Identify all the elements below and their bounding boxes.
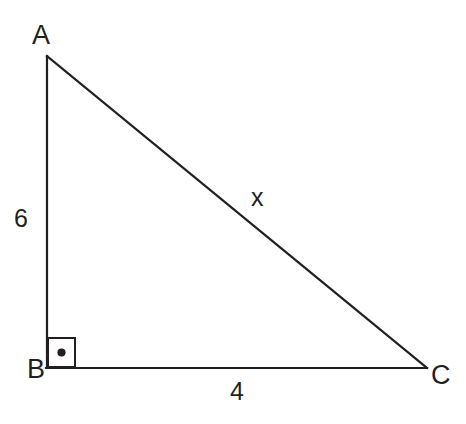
side-label-bc: 4: [230, 379, 244, 404]
diagram-canvas: A B C 6 4 x: [0, 0, 466, 424]
right-triangle-figure: [0, 0, 466, 424]
segment-ac: [47, 56, 427, 368]
side-label-ac: x: [251, 185, 264, 210]
side-label-ab: 6: [14, 206, 28, 231]
vertex-label-b: B: [27, 356, 45, 383]
vertex-label-c: C: [431, 362, 451, 389]
right-angle-dot-icon: [57, 348, 65, 356]
vertex-label-a: A: [32, 22, 50, 49]
